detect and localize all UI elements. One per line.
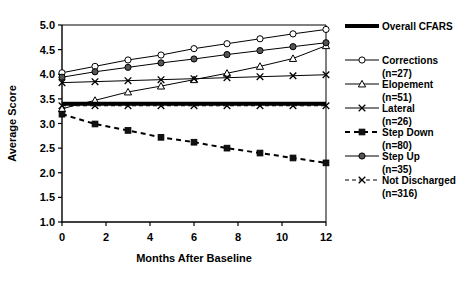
x-tick-label: 12 <box>320 231 332 243</box>
marker-filled-circle <box>59 74 65 80</box>
legend-label: Step Up <box>382 151 420 162</box>
marker-filled-circle <box>359 153 365 159</box>
marker-open-circle <box>158 52 164 58</box>
x-tick-label: 4 <box>147 231 154 243</box>
marker-filled-square <box>158 134 164 140</box>
marker-filled-square <box>359 129 365 135</box>
marker-open-circle <box>224 41 230 47</box>
marker-filled-circle <box>257 48 263 54</box>
marker-filled-square <box>257 150 263 156</box>
legend-n-label: (n=80) <box>382 140 412 151</box>
marker-open-circle <box>323 26 329 32</box>
marker-filled-circle <box>224 51 230 57</box>
marker-filled-square <box>290 155 296 161</box>
y-axis-title: Average Score <box>6 85 18 162</box>
marker-filled-square <box>224 145 230 151</box>
y-tick-label: 1.0 <box>40 216 55 228</box>
marker-open-circle <box>257 36 263 42</box>
y-tick-label: 3.0 <box>40 118 55 130</box>
legend-n-label: (n=316) <box>382 188 417 199</box>
marker-filled-circle <box>323 40 329 46</box>
marker-filled-square <box>92 121 98 127</box>
cfars-line-chart: 1.01.52.02.53.03.54.04.55.0024681012Mont… <box>0 0 463 284</box>
marker-filled-circle <box>158 60 164 66</box>
x-axis-title: Months After Baseline <box>136 252 252 264</box>
legend-n-label: (n=51) <box>382 92 412 103</box>
marker-open-circle <box>359 57 365 63</box>
y-tick-label: 3.5 <box>40 93 55 105</box>
x-tick-label: 0 <box>59 231 65 243</box>
y-tick-label: 2.5 <box>40 142 55 154</box>
marker-filled-circle <box>125 64 131 70</box>
y-tick-label: 2.0 <box>40 167 55 179</box>
x-tick-label: 2 <box>103 231 109 243</box>
marker-filled-circle <box>191 56 197 62</box>
x-tick-label: 8 <box>235 231 241 243</box>
marker-open-circle <box>290 31 296 37</box>
legend-label: Overall CFARS <box>382 21 453 32</box>
legend-label: Lateral <box>382 103 415 114</box>
y-tick-label: 5.0 <box>40 19 55 31</box>
x-tick-label: 6 <box>191 231 197 243</box>
marker-open-circle <box>191 46 197 52</box>
marker-filled-square <box>323 160 329 166</box>
legend-n-label: (n=27) <box>382 68 412 79</box>
marker-filled-square <box>191 139 197 145</box>
y-tick-label: 4.5 <box>40 44 55 56</box>
legend-n-label: (n=35) <box>382 164 412 175</box>
marker-open-circle <box>125 57 131 63</box>
y-tick-label: 4.0 <box>40 68 55 80</box>
legend-label: Step Down <box>382 127 434 138</box>
y-tick-label: 1.5 <box>40 191 55 203</box>
chart-figure: 1.01.52.02.53.03.54.04.55.0024681012Mont… <box>0 0 463 284</box>
legend-label: Not Discharged <box>382 175 456 186</box>
marker-filled-square <box>125 127 131 133</box>
marker-filled-square <box>59 111 65 117</box>
marker-filled-circle <box>92 69 98 75</box>
x-tick-label: 10 <box>276 231 288 243</box>
legend-n-label: (n=26) <box>382 116 412 127</box>
legend-label: Elopement <box>382 79 434 90</box>
marker-filled-circle <box>290 44 296 50</box>
legend-label: Corrections <box>382 55 439 66</box>
